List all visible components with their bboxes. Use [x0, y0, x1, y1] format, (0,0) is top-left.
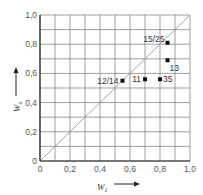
x-tick-label: 0,2 [64, 164, 76, 174]
x-axis-arrowhead-icon [134, 182, 140, 187]
y-axis-arrowhead-icon [14, 67, 19, 73]
data-point [166, 41, 170, 45]
point-label: 12/14 [97, 76, 119, 86]
x-tick-label: 0,6 [124, 164, 136, 174]
point-label: 15/25 [143, 34, 165, 44]
point-label: 11 [132, 74, 141, 84]
y-axis-label-subscript: a [17, 102, 23, 105]
y-tick-label: 0,4 [25, 98, 37, 108]
x-tick-label: 0 [38, 164, 43, 174]
y-tick-label: 1,0 [25, 10, 37, 20]
scatter-chart: 00,20,40,60,81,0 00,20,40,60,81,0 12/141… [0, 0, 203, 195]
y-tick-label: 0,8 [25, 39, 37, 49]
data-point [121, 79, 125, 83]
y-tick-label: 0,6 [25, 68, 37, 78]
data-point [143, 77, 147, 81]
y-axis-title: Wa [12, 67, 23, 112]
x-tick-label: 0,8 [154, 164, 166, 174]
x-axis-label-subscript: 1 [105, 187, 108, 193]
y-tick-label: 0,2 [25, 127, 37, 137]
x-tick-label: 1,0 [184, 164, 196, 174]
data-point [166, 58, 170, 62]
data-point [158, 77, 162, 81]
point-label: 13 [170, 63, 180, 73]
y-tick-label: 0 [32, 156, 37, 166]
x-tick-labels: 00,20,40,60,81,0 [38, 164, 197, 174]
y-axis-label: Wa [12, 102, 23, 113]
x-tick-label: 0,4 [94, 164, 106, 174]
point-label: 35 [163, 74, 173, 84]
x-axis-title: W1 [97, 182, 140, 194]
y-tick-labels: 00,20,40,60,81,0 [25, 10, 37, 166]
x-axis-label: W1 [97, 182, 108, 193]
